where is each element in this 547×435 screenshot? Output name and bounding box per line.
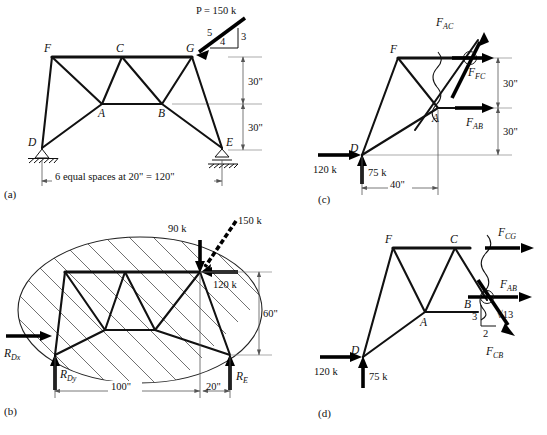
panel-b-label: (b)	[4, 405, 17, 418]
panel-d-force-cb: FCB	[485, 345, 503, 360]
panel-c-member-FA	[398, 58, 438, 108]
panel-a-slope-hyp: 5	[207, 27, 212, 38]
fbd-hatching	[0, 68, 322, 430]
panel-c-force-ab: FAB	[465, 116, 483, 131]
panel-c-joint-A: A	[431, 112, 440, 124]
panel-a-dim-lower: 30"	[248, 122, 263, 133]
panel-d-slope-vert: 3	[472, 311, 477, 322]
panel-b-reaction-dy: RDy	[59, 368, 77, 383]
panel-d: FCG FAB FCB 3 2 √13 F C A B D 120 k 75 k…	[314, 226, 534, 420]
panel-d-slope-hyp: √13	[497, 309, 513, 320]
panel-c-force-fc: FFC	[467, 66, 486, 81]
panel-a-joint-A: A	[97, 107, 106, 119]
panel-b-dim-main: 100"	[111, 381, 131, 392]
panel-a-joint-G: G	[186, 42, 195, 54]
panel-a-joint-B: B	[158, 107, 165, 119]
member-DA	[42, 104, 102, 148]
support-pin-D	[35, 149, 49, 158]
panel-d-fab-head	[519, 292, 532, 302]
member-FD	[42, 57, 52, 148]
panel-c-reaction-h: 120 k	[313, 164, 337, 175]
member-BE	[162, 104, 222, 148]
panel-b-member-DA	[55, 330, 105, 355]
panel-d-reaction-v: 75 k	[369, 371, 388, 382]
panel-c-reaction-v: 75 k	[368, 167, 387, 178]
panel-c-dim-lower: 30"	[503, 126, 518, 137]
panel-d-joint-F: F	[384, 233, 393, 245]
panel-a-joint-D: D	[27, 136, 37, 148]
support-hatch-D	[29, 159, 58, 164]
panel-c-label: (c)	[318, 193, 331, 206]
support-hatch-E	[209, 164, 238, 168]
panel-a-joint-E: E	[225, 136, 233, 148]
panel-b-reaction-dx: RDx	[3, 347, 21, 362]
panel-b-load-150k-arrow	[205, 221, 236, 267]
panel-a: 30" 30" F C G A B D E	[4, 5, 263, 201]
panel-b-dim-height: 60"	[263, 308, 278, 319]
panel-b-member-CB	[125, 272, 155, 330]
panel-d-joint-C: C	[450, 233, 458, 245]
panel-c: 30" 30" FAC FFC FAB F A D 120 k	[313, 16, 518, 206]
panel-b: 90 k 150 k 120 k RDx RDy RE 60" 100	[0, 68, 322, 430]
panel-c-dim-horiz: 40"	[390, 179, 405, 190]
panel-c-fab-head	[482, 103, 494, 113]
panel-b-rdx-head	[40, 331, 52, 341]
panel-b-dim-overhang: 20"	[206, 381, 221, 392]
panel-d-member-FD	[363, 248, 393, 357]
panel-d-label: (d)	[318, 407, 331, 420]
panel-c-member-FD	[362, 58, 398, 155]
panel-b-load-diagonal: 150 k	[238, 215, 262, 226]
panel-c-dim-upper: 30"	[503, 78, 518, 89]
panel-d-reaction-h: 120 k	[314, 366, 338, 377]
panel-d-member-FA	[393, 248, 425, 312]
member-BG	[162, 57, 192, 104]
panel-d-joint-B: B	[464, 298, 471, 310]
panel-a-joint-C: C	[116, 42, 124, 54]
member-CB	[122, 57, 162, 104]
panel-d-slope-horiz: 2	[483, 328, 488, 339]
panel-b-load-horizontal: 120 k	[213, 279, 237, 290]
member-GE	[192, 57, 222, 148]
panel-a-slope-vert: 3	[241, 31, 246, 42]
panel-b-member-AC	[105, 272, 125, 330]
panel-b-member-FA	[65, 272, 105, 330]
panel-b-reaction-e: RE	[235, 370, 248, 385]
panel-d-fcg-head	[521, 243, 534, 253]
member-AC	[102, 57, 122, 104]
support-roller-E	[215, 149, 229, 157]
panel-a-slope-horiz: 4	[220, 36, 226, 47]
panel-a-label: (a)	[4, 188, 17, 201]
panel-b-load-vertical: 90 k	[168, 223, 187, 234]
panel-d-member-DA	[363, 312, 425, 357]
member-FA	[52, 57, 102, 104]
panel-b-member-BE	[155, 330, 230, 355]
panel-c-force-ac: FAC	[435, 16, 454, 31]
panel-a-joint-F: F	[43, 42, 52, 54]
panel-a-load-label: P = 150 k	[196, 5, 237, 16]
panel-c-ffc-head	[482, 53, 494, 63]
panel-d-force-ab: FAB	[499, 278, 517, 293]
figure-truss-analysis: 30" 30" F C G A B D E	[0, 0, 547, 435]
panel-a-dim-upper: 30"	[248, 76, 263, 87]
panel-c-joint-F: F	[389, 43, 398, 55]
panel-d-joint-A: A	[419, 316, 428, 328]
panel-a-span-note: 6 equal spaces at 20" = 120"	[55, 171, 174, 182]
panel-d-force-cg: FCG	[497, 226, 516, 241]
panel-d-member-AC	[425, 248, 455, 312]
